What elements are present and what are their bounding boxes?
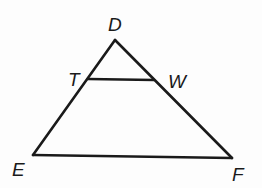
- triangle-diagram: D T W E F: [0, 0, 262, 188]
- segment-EF: [33, 155, 232, 158]
- segment-TW: [88, 79, 154, 80]
- segment-DF: [115, 40, 232, 158]
- label-E: E: [12, 159, 25, 180]
- label-W: W: [168, 71, 188, 92]
- segment-DE: [33, 40, 115, 155]
- label-F: F: [232, 164, 245, 185]
- label-D: D: [108, 14, 122, 35]
- label-T: T: [68, 69, 81, 90]
